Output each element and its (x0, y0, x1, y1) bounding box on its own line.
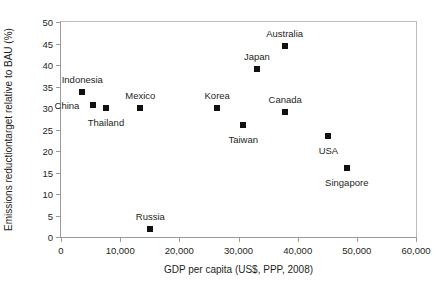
data-point-china (90, 102, 96, 108)
data-point-korea (214, 105, 220, 111)
x-axis-tick (298, 237, 299, 242)
data-point-russia (147, 226, 153, 232)
y-axis-tick-label: 35 (42, 81, 53, 92)
y-axis-tick-label: 20 (42, 146, 53, 157)
data-point-mexico (137, 105, 143, 111)
data-point-label-mexico: Mexico (125, 90, 155, 101)
x-axis-tick-label: 20,000 (165, 245, 194, 256)
y-axis-tick-label: 10 (42, 189, 53, 200)
x-axis-tick-label: 40,000 (283, 245, 312, 256)
x-axis-tick-label: 30,000 (224, 245, 253, 256)
y-axis-tick (56, 173, 61, 174)
y-axis-tick (56, 151, 61, 152)
x-axis-tick (357, 237, 358, 242)
y-axis-tick-label: 50 (42, 17, 53, 28)
x-axis-title: GDP per capita (US$, PPP, 2008) (60, 264, 417, 275)
x-axis-tick (416, 237, 417, 242)
y-axis-tick-label: 30 (42, 103, 53, 114)
y-axis-title: Emissions reductiontarget relative to BA… (0, 21, 16, 238)
y-axis-tick-label: 5 (48, 210, 53, 221)
y-axis-tick (56, 65, 61, 66)
data-point-japan (254, 66, 260, 72)
data-point-label-canada: Canada (269, 94, 302, 105)
y-axis-tick (56, 194, 61, 195)
x-axis-tick (239, 237, 240, 242)
y-axis-tick-label: 15 (42, 167, 53, 178)
data-point-singapore (344, 165, 350, 171)
x-axis-tick-label: 50,000 (342, 245, 371, 256)
y-axis-tick (56, 130, 61, 131)
data-point-label-indonesia: Indonesia (62, 74, 103, 85)
data-point-label-japan: Japan (244, 51, 270, 62)
data-point-taiwan (240, 122, 246, 128)
data-point-indonesia (79, 89, 85, 95)
data-point-label-australia: Australia (266, 27, 303, 38)
x-axis-tick (179, 237, 180, 242)
data-point-thailand (103, 105, 109, 111)
data-point-label-usa: USA (319, 144, 339, 155)
data-point-label-thailand: Thailand (88, 117, 124, 128)
plot-area: 05101520253035404550010,00020,00030,0004… (60, 21, 417, 238)
x-axis-tick-label: 10,000 (106, 245, 135, 256)
data-point-canada (282, 109, 288, 115)
y-axis-title-text: Emissions reductiontarget relative to BA… (3, 28, 14, 231)
data-point-label-korea: Korea (205, 90, 230, 101)
data-point-label-taiwan: Taiwan (228, 134, 258, 145)
x-axis-tick-label: 0 (58, 245, 63, 256)
y-axis-tick-label: 0 (48, 232, 53, 243)
x-axis-tick (61, 237, 62, 242)
y-axis-tick (56, 216, 61, 217)
data-point-label-singapore: Singapore (325, 177, 368, 188)
data-point-usa (325, 133, 331, 139)
data-point-australia (282, 43, 288, 49)
x-axis-tick-label: 60,000 (401, 245, 430, 256)
y-axis-tick-label: 45 (42, 38, 53, 49)
y-axis-tick-label: 40 (42, 60, 53, 71)
scatter-chart-figure: Emissions reductiontarget relative to BA… (0, 0, 440, 288)
y-axis-tick-label: 25 (42, 124, 53, 135)
x-axis-tick (120, 237, 121, 242)
y-axis-tick (56, 87, 61, 88)
y-axis-tick (56, 22, 61, 23)
data-point-label-russia: Russia (136, 211, 165, 222)
data-point-label-china: China (55, 99, 80, 110)
y-axis-tick (56, 44, 61, 45)
